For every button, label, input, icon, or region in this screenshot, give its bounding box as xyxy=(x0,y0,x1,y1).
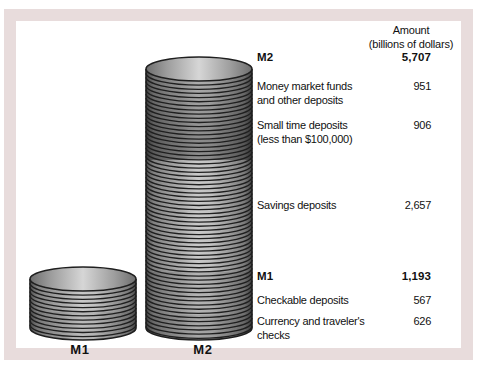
row-value: 906 xyxy=(413,119,431,133)
row-label-line2: (less than $100,000) xyxy=(257,133,397,147)
row-label: Small time deposits xyxy=(257,119,397,133)
row-label: Checkable deposits xyxy=(257,294,397,308)
row-currency-travelers-checks: Currency and traveler's checks 626 xyxy=(257,315,431,342)
row-small-time-deposits: Small time deposits (less than $100,000)… xyxy=(257,119,431,146)
m1-coin-stack-top-face xyxy=(30,267,136,291)
row-label-line2: and other deposits xyxy=(257,94,397,108)
row-value: 1,193 xyxy=(402,270,431,284)
row-value: 626 xyxy=(413,315,431,329)
row-value: 2,657 xyxy=(405,199,431,213)
amount-header-line2: (billions of dollars) xyxy=(350,38,472,52)
amount-header-line1: Amount xyxy=(350,24,472,38)
m2-coin-stack xyxy=(146,57,252,341)
row-value: 5,707 xyxy=(402,51,431,65)
row-label: M2 xyxy=(257,51,397,65)
figure-m1-m2-money-supply: M1 M2 Amount (billions of dollars) M2 5,… xyxy=(0,0,481,366)
row-value: 951 xyxy=(413,80,431,94)
row-m2-total: M2 5,707 xyxy=(257,51,431,65)
row-label: Money market funds xyxy=(257,80,397,94)
row-checkable-deposits: Checkable deposits 567 xyxy=(257,294,431,308)
row-m1-total: M1 1,193 xyxy=(257,270,431,284)
amount-column-header: Amount (billions of dollars) xyxy=(350,24,472,51)
row-value: 567 xyxy=(413,294,431,308)
m1-coin-stack xyxy=(30,267,136,342)
row-label: Savings deposits xyxy=(257,199,397,213)
m2-stack-label: M2 xyxy=(168,342,238,357)
m1-stack-label: M1 xyxy=(45,342,115,357)
row-savings-deposits: Savings deposits 2,657 xyxy=(257,199,431,213)
row-money-market-funds: Money market funds and other deposits 95… xyxy=(257,80,431,107)
m2-coin-stack-top-face xyxy=(146,57,252,81)
row-label: M1 xyxy=(257,270,397,284)
row-label: Currency and traveler's checks xyxy=(257,315,397,342)
